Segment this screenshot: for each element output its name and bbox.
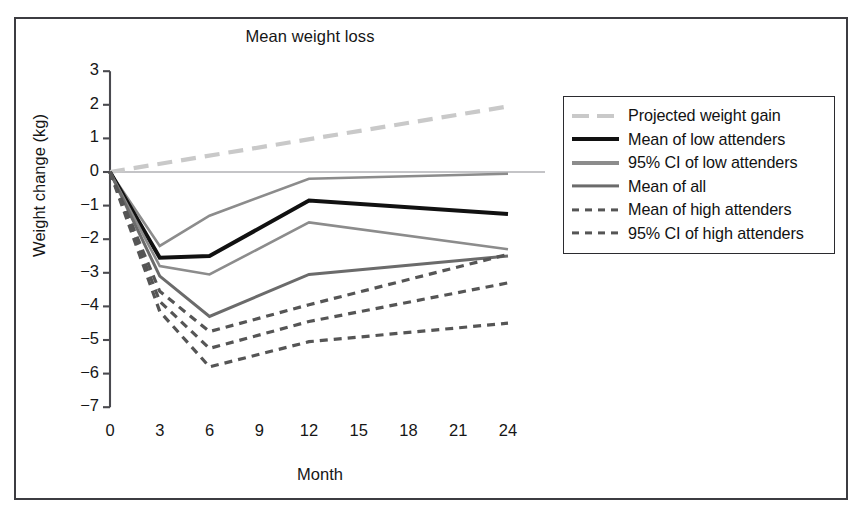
series-line: [110, 172, 508, 258]
legend-line-swatch-icon: [572, 226, 619, 240]
legend-item[interactable]: 95% CI of high attenders: [572, 222, 826, 246]
legend-item[interactable]: Mean of all: [572, 175, 826, 199]
legend-line-swatch-icon: [572, 132, 619, 146]
legend-item-label: Mean of low attenders: [628, 130, 785, 149]
legend-item-label: Projected weight gain: [628, 106, 781, 125]
legend-line-swatch-icon: [572, 109, 619, 123]
legend-item[interactable]: 95% CI of low attenders: [572, 151, 826, 175]
legend-item-label: 95% CI of low attenders: [628, 153, 798, 172]
figure-root: Mean weight loss Weight change (kg) Mont…: [0, 0, 863, 515]
legend-line-swatch-icon: [572, 156, 619, 170]
series-line: [110, 172, 508, 332]
legend-line-swatch-icon: [572, 203, 619, 217]
data-series-group: [110, 106, 508, 366]
legend-item[interactable]: Mean of high attenders: [572, 198, 826, 222]
plot-area: [0, 0, 863, 515]
legend: Projected weight gainMean of low attende…: [563, 96, 835, 254]
legend-item-label: Mean of all: [628, 177, 706, 196]
series-line: [110, 106, 508, 172]
legend-item-label: 95% CI of high attenders: [628, 224, 804, 243]
legend-line-swatch-icon: [572, 179, 619, 193]
legend-item[interactable]: Mean of low attenders: [572, 128, 826, 152]
legend-item[interactable]: Projected weight gain: [572, 104, 826, 128]
legend-item-label: Mean of high attenders: [628, 200, 791, 219]
